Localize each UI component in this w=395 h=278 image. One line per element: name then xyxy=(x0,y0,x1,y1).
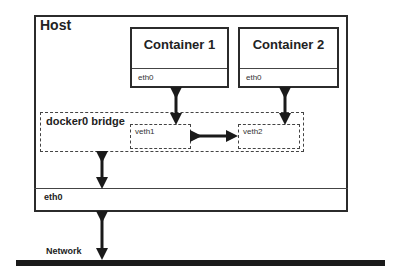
connection-arrows xyxy=(0,0,395,278)
